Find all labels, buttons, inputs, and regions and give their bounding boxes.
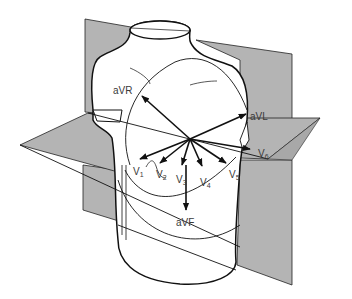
- ecg-lead-diagram: aVR aVL aVF V1 V2 V3 V4 V5 V6: [0, 0, 352, 299]
- label-avl: aVL: [250, 111, 268, 122]
- label-avf: aVF: [176, 217, 194, 228]
- label-avr: aVR: [113, 85, 132, 96]
